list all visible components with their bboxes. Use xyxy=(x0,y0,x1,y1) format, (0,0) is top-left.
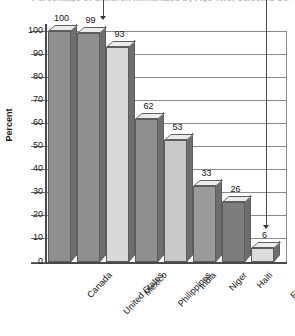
bar-value-label: 6 xyxy=(253,230,276,240)
bar-value-label: 99 xyxy=(79,15,102,25)
bar-haiti xyxy=(222,202,245,262)
category-label-niger: Niger xyxy=(227,270,249,293)
bar-ethiopia xyxy=(251,248,274,262)
bar-value-label: 100 xyxy=(50,13,73,23)
bar-india xyxy=(164,140,187,262)
ytick-label-100: 100 xyxy=(17,25,43,35)
category-label-canada: Canada xyxy=(85,270,114,300)
bar-value-label: 62 xyxy=(137,101,160,111)
bar-front-face xyxy=(164,140,187,262)
x-axis-line xyxy=(31,262,287,264)
bar-front-face xyxy=(77,33,100,262)
bar-philippines xyxy=(135,119,158,262)
bar-value-label: 93 xyxy=(108,29,131,39)
arrow-to-united-states-head xyxy=(100,16,106,20)
ytick-label-50: 50 xyxy=(17,140,43,150)
arrow-to-ethiopia-line xyxy=(266,0,267,226)
bar-value-label: 33 xyxy=(195,168,218,178)
ytick-label-70: 70 xyxy=(17,94,43,104)
arrow-to-united-states-line xyxy=(103,0,104,17)
bar-front-face xyxy=(106,47,129,262)
bar-canada xyxy=(48,31,71,262)
ytick-label-0: 0 xyxy=(17,256,43,266)
category-label-india: India xyxy=(197,270,218,291)
bar-value-label: 26 xyxy=(224,184,247,194)
bar-front-face xyxy=(251,248,274,262)
bar-front-face xyxy=(48,31,71,262)
y-axis-line xyxy=(45,24,47,264)
bar-front-face xyxy=(222,202,245,262)
bar-mexico xyxy=(106,47,129,262)
ytick-label-40: 40 xyxy=(17,163,43,173)
bar-value-label: 53 xyxy=(166,122,189,132)
ytick-label-90: 90 xyxy=(17,48,43,58)
ytick-label-10: 10 xyxy=(17,232,43,242)
bar-front-face xyxy=(135,119,158,262)
ytick-label-30: 30 xyxy=(17,186,43,196)
category-label-haiti: Haiti xyxy=(255,270,275,290)
bar-chart: Percentage of Children Immunized by Age … xyxy=(0,0,295,336)
plot-right-edge xyxy=(286,31,287,262)
bar-niger xyxy=(193,186,216,262)
ytick-label-80: 80 xyxy=(17,71,43,81)
ytick-label-60: 60 xyxy=(17,117,43,127)
y-axis-title: Percent xyxy=(4,90,14,160)
bar-front-face xyxy=(193,186,216,262)
chart-title: Percentage of Children Immunized by Age … xyxy=(32,0,290,2)
arrow-to-ethiopia-head xyxy=(263,225,269,229)
category-label-ethiopia: Ethiopia xyxy=(288,270,295,301)
ytick-label-20: 20 xyxy=(17,209,43,219)
bar-united-states xyxy=(77,33,100,262)
